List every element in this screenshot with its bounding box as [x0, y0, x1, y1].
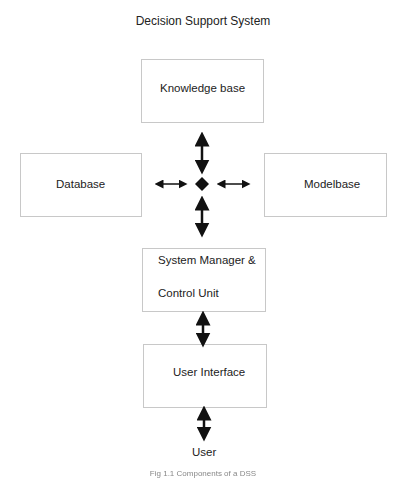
- hub-diamond-icon: [195, 177, 209, 191]
- figure-caption: Fig 1.1 Components of a DSS: [0, 469, 406, 478]
- connector-arrows: [0, 0, 406, 478]
